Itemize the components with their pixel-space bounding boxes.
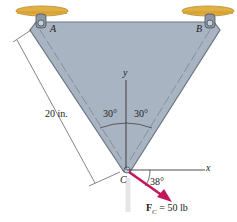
label-20in: 20 in. — [45, 109, 68, 119]
triangular-plate — [30, 22, 220, 172]
label-force: FC = 50 lb — [146, 203, 188, 216]
label-b: B — [196, 24, 202, 34]
label-x-axis: x — [206, 163, 210, 173]
label-c: C — [120, 175, 127, 185]
force-value: = 50 lb — [157, 202, 188, 213]
pin-b-icon — [205, 14, 215, 28]
label-angle-right: 30° — [134, 109, 148, 119]
label-a: A — [50, 24, 56, 34]
label-angle-38: 38° — [150, 177, 164, 187]
label-y-axis: y — [123, 68, 127, 78]
diagram-canvas: A B C y x 20 in. 30° 30° 38° FC = 50 lb — [0, 0, 237, 222]
pin-a-icon — [36, 14, 46, 28]
label-angle-left: 30° — [103, 109, 117, 119]
